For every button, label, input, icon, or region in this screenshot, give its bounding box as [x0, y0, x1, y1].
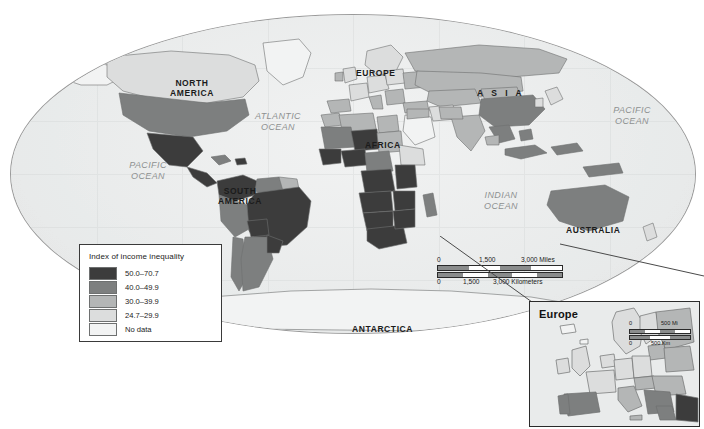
scale-bar: 0 1,500 3,000 Miles 0 1,500 3,000 Kilome…: [437, 256, 563, 287]
label-atlantic-line2: OCEAN: [247, 122, 309, 133]
label-south-america-line1: SOUTH: [209, 186, 271, 196]
label-pacific-west-line2: OCEAN: [120, 171, 176, 182]
legend-label: No data: [125, 325, 152, 334]
inset-scale-bar: 0 500 Mi 0 500 Km: [629, 320, 691, 349]
label-europe: EUROPE: [356, 68, 396, 78]
legend-title: Index of income inequality: [89, 252, 221, 261]
inset-scale-km-max: 500 Km: [651, 340, 670, 346]
europe-inset: Europe 0 500 Mi 0 500 Km: [529, 301, 700, 427]
legend-label: 30.0–39.9: [125, 297, 159, 306]
label-asia: A S I A: [477, 88, 525, 98]
legend-item: No data: [89, 322, 221, 336]
label-south-america: SOUTH AMERICA: [209, 186, 271, 206]
scale-km-max: 3,000 Kilometers: [493, 278, 542, 285]
label-antarctica: ANTARCTICA: [352, 324, 413, 334]
label-pacific-east-line1: PACIFIC: [604, 105, 660, 116]
label-indian-line1: INDIAN: [472, 190, 530, 201]
inset-scale-km-labels: 0 500 Km: [629, 340, 691, 349]
label-africa: AFRICA: [365, 140, 401, 150]
scale-miles-zero: 0: [437, 256, 441, 263]
label-australia: AUSTRALIA: [566, 225, 621, 235]
world-choropleth-map: NORTH AMERICA SOUTH AMERICA EUROPE AFRIC…: [0, 0, 704, 429]
scale-bar-miles-labels: 0 1,500 3,000 Miles: [437, 256, 563, 265]
legend-item: 30.0–39.9: [89, 294, 221, 308]
label-north-america: NORTH AMERICA: [161, 78, 223, 98]
inset-scale-miles-labels: 0 500 Mi: [629, 320, 691, 329]
label-pacific-east-line2: OCEAN: [604, 116, 660, 127]
legend-swatch: [89, 309, 117, 322]
label-pacific-ocean-west: PACIFIC OCEAN: [120, 160, 176, 182]
legend-swatch: [89, 267, 117, 280]
inset-title: Europe: [539, 308, 578, 320]
label-pacific-west-line1: PACIFIC: [120, 160, 176, 171]
legend-item: 24.7–29.9: [89, 308, 221, 322]
inset-scale-km-zero: 0: [629, 340, 632, 346]
label-north-america-line1: NORTH: [161, 78, 223, 88]
inset-scale-miles-track: [629, 329, 691, 334]
label-indian-line2: OCEAN: [472, 201, 530, 212]
label-north-america-line2: AMERICA: [161, 88, 223, 98]
scale-bar-km-labels: 0 1,500 3,000 Kilometers: [437, 278, 563, 287]
legend-label: 24.7–29.9: [125, 311, 159, 320]
scale-bar-miles-track: [437, 265, 563, 271]
legend-item: 50.0–70.7: [89, 266, 221, 280]
scale-miles-max: 3,000 Miles: [521, 256, 555, 263]
legend-swatch: [89, 281, 117, 294]
inset-scale-miles-max: 500 Mi: [661, 320, 678, 326]
label-atlantic-line1: ATLANTIC: [247, 111, 309, 122]
label-south-america-line2: AMERICA: [209, 196, 271, 206]
legend-swatch: [89, 295, 117, 308]
legend-entries: 50.0–70.7 40.0–49.9 30.0–39.9 24.7–29.9 …: [80, 266, 221, 336]
label-indian-ocean: INDIAN OCEAN: [472, 190, 530, 212]
inset-scale-miles-zero: 0: [629, 320, 632, 326]
label-atlantic-ocean: ATLANTIC OCEAN: [247, 111, 309, 133]
legend-item: 40.0–49.9: [89, 280, 221, 294]
label-pacific-ocean-east: PACIFIC OCEAN: [604, 105, 660, 127]
legend-swatch: [89, 323, 117, 336]
scale-km-mid: 1,500: [463, 278, 480, 285]
legend-label: 50.0–70.7: [125, 269, 159, 278]
scale-km-zero: 0: [437, 278, 441, 285]
legend-label: 40.0–49.9: [125, 283, 159, 292]
legend: Index of income inequality 50.0–70.7 40.…: [79, 244, 222, 342]
scale-miles-mid: 1,500: [479, 256, 496, 263]
